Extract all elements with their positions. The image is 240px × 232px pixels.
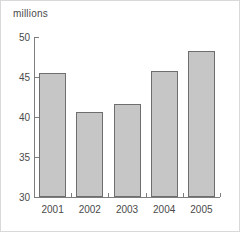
bar-chart: millions 50 45 40 35 30 2001 2002 2003 2…: [0, 0, 240, 232]
y-tick-label-30: 30: [4, 192, 30, 203]
x-axis-line: [34, 197, 220, 198]
bar-2004: [151, 71, 178, 197]
bar-series-container: [34, 37, 220, 197]
x-separator-5: [220, 193, 221, 197]
x-separator-4: [183, 193, 184, 197]
x-tick-label-2002: 2002: [79, 204, 101, 215]
x-separator-2: [108, 193, 109, 197]
bar-2002: [76, 112, 103, 197]
y-tick-label-35: 35: [4, 152, 30, 163]
bar-2005: [188, 51, 215, 197]
x-tick-label-2003: 2003: [116, 204, 138, 215]
y-tick-label-45: 45: [4, 72, 30, 83]
x-separator-0: [34, 193, 35, 197]
x-tick-label-2004: 2004: [153, 204, 175, 215]
y-axis-unit-label: millions: [13, 8, 48, 19]
x-separator-3: [146, 193, 147, 197]
bar-2001: [39, 73, 66, 197]
x-tick-label-2005: 2005: [190, 204, 212, 215]
x-separator-1: [71, 193, 72, 197]
bar-2003: [114, 104, 141, 197]
y-tick-label-40: 40: [4, 112, 30, 123]
x-tick-label-2001: 2001: [41, 204, 63, 215]
y-tick-label-50: 50: [4, 32, 30, 43]
